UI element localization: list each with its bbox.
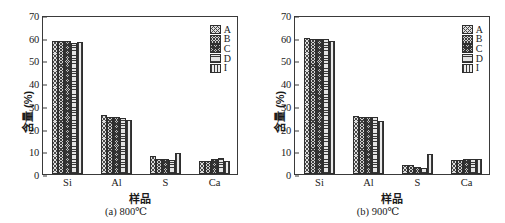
y-tick-label: 40 (281, 80, 291, 91)
y-tick-label: 50 (29, 57, 39, 68)
legend-item-d[interactable]: D (210, 54, 231, 64)
x-tick-label-al: Al (363, 178, 374, 189)
chart-panel-b: 含量 (%) 010203040506070SiAlSCaABCDI 样品 (b… (252, 0, 504, 223)
x-axis-title-b: 样品 (294, 190, 490, 206)
y-tick-mark (295, 17, 299, 18)
bar-s-i (427, 154, 433, 174)
y-tick-mark (295, 85, 299, 86)
y-tick-mark (43, 176, 47, 177)
y-tick-mark (295, 39, 299, 40)
y-tick-label: 0 (34, 171, 39, 182)
legend-swatch-d-icon (210, 54, 221, 63)
bar-al-i (126, 120, 132, 174)
plot-frame-b: 010203040506070SiAlSCaABCDI (294, 16, 490, 175)
y-tick-label: 70 (29, 12, 39, 23)
y-tick-label: 10 (29, 148, 39, 159)
y-tick-mark (43, 153, 47, 154)
y-tick-mark (43, 130, 47, 131)
x-tick-label-al: Al (111, 178, 122, 189)
x-tick-label-ca: Ca (461, 178, 473, 189)
bar-ca-i (224, 161, 230, 174)
y-tick-mark (43, 85, 47, 86)
y-tick-mark (295, 176, 299, 177)
panel-caption-b: (b) 900℃ (252, 205, 504, 217)
y-tick-mark (295, 153, 299, 154)
y-tick-label: 10 (281, 148, 291, 159)
bar-al-i (378, 121, 384, 174)
legend-item-i[interactable]: I (210, 63, 231, 73)
y-tick-label: 20 (281, 125, 291, 136)
x-tick-label-s: S (415, 178, 421, 189)
y-tick-mark (43, 39, 47, 40)
y-tick-mark (295, 130, 299, 131)
y-tick-mark (43, 17, 47, 18)
y-tick-label: 30 (281, 103, 291, 114)
legend-label: I (476, 63, 479, 73)
panel-caption-a: (a) 800℃ (0, 205, 252, 217)
y-tick-label: 50 (281, 57, 291, 68)
y-tick-label: 70 (281, 12, 291, 23)
y-tick-label: 60 (29, 34, 39, 45)
bar-si-i (329, 41, 335, 174)
legend-swatch-a-icon (210, 25, 221, 34)
x-tick-label-si: Si (315, 178, 324, 189)
y-tick-label: 30 (29, 103, 39, 114)
legend-item-d[interactable]: D (462, 54, 483, 64)
figure-canvas: 含量 (%) 010203040506070SiAlSCaABCDI 样品 (a… (0, 0, 505, 223)
y-tick-label: 20 (29, 125, 39, 136)
y-tick-mark (43, 62, 47, 63)
legend-swatch-i-icon (462, 64, 473, 73)
legend-swatch-b-icon (210, 35, 221, 44)
bar-ca-i (476, 159, 482, 174)
bar-si-i (77, 42, 83, 174)
x-tick-label-s: S (163, 178, 169, 189)
legend-swatch-i-icon (210, 64, 221, 73)
legend: ABCDI (462, 25, 483, 73)
y-tick-label: 40 (29, 80, 39, 91)
legend-swatch-b-icon (462, 35, 473, 44)
bar-s-i (175, 153, 181, 174)
y-tick-mark (295, 107, 299, 108)
legend-swatch-c-icon (462, 44, 473, 53)
x-tick-label-ca: Ca (209, 178, 221, 189)
y-tick-label: 0 (286, 171, 291, 182)
legend-label: I (224, 63, 227, 73)
chart-panel-a: 含量 (%) 010203040506070SiAlSCaABCDI 样品 (a… (0, 0, 252, 223)
y-tick-mark (43, 107, 47, 108)
y-tick-mark (295, 62, 299, 63)
y-tick-label: 60 (281, 34, 291, 45)
legend-swatch-c-icon (210, 44, 221, 53)
legend-item-i[interactable]: I (462, 63, 483, 73)
legend-swatch-d-icon (462, 54, 473, 63)
legend: ABCDI (210, 25, 231, 73)
plot-frame-a: 010203040506070SiAlSCaABCDI (42, 16, 238, 175)
x-axis-title-a: 样品 (42, 190, 238, 206)
legend-swatch-a-icon (462, 25, 473, 34)
x-tick-label-si: Si (63, 178, 72, 189)
